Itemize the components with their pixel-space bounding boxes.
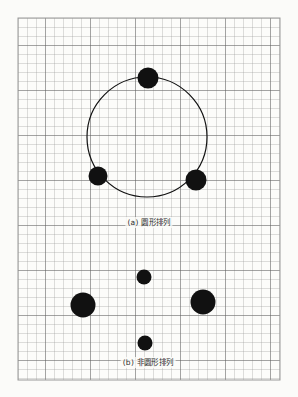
panel-b-dot-left (71, 293, 96, 318)
panel-b-caption: (b) 非圆形排列 (121, 357, 176, 368)
panel-b-dot-top (137, 270, 152, 285)
panel-a-dot-bottom-right (186, 170, 207, 191)
panel-a-dot-top (138, 68, 159, 89)
panel-b-dot-bottom (138, 336, 153, 351)
panel-b-dot-right (191, 290, 216, 315)
figure-container: (a) 圆形排列 (b) 非圆形排列 (0, 0, 298, 397)
figure-canvas (0, 0, 298, 397)
panel-a-dot-bottom-left (89, 167, 108, 186)
panel-a-caption: (a) 圆形排列 (125, 217, 172, 228)
